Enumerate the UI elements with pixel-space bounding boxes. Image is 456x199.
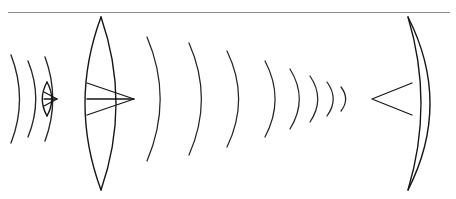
converging-wavefront-arc-2 (189, 43, 201, 155)
converging-wavefront-arc-5 (290, 69, 299, 129)
converging-wavefront-arc-1 (147, 37, 160, 161)
concave-meniscus-element (372, 17, 430, 190)
converging-wavefronts (147, 37, 346, 161)
converging-wavefront-arc-3 (227, 51, 239, 147)
converging-wavefront-arc-4 (265, 61, 275, 137)
source-wavefront-arc-1 (11, 55, 20, 143)
optics-diagram (0, 0, 456, 199)
figure-canvas (0, 0, 456, 199)
meniscus-ray-cone (372, 83, 412, 115)
converging-wavefront-arc-8 (341, 87, 346, 111)
converging-wavefront-arc-7 (327, 82, 333, 116)
small-biconvex-lens (42, 82, 57, 116)
converging-wavefront-arc-6 (310, 76, 318, 122)
main-lens-left-face (85, 17, 101, 190)
main-lens-right-face (101, 17, 116, 190)
meniscus-outer-face (408, 17, 430, 190)
large-biconvex-lens (85, 17, 134, 190)
source-wavefront-arc-2 (28, 61, 36, 137)
